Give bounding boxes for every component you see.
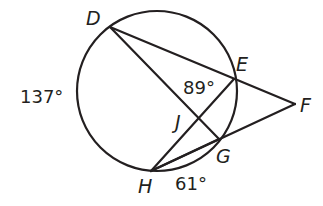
circle-secant-diagram: D E F G H J 137° 89° 61° xyxy=(0,0,323,206)
point-label-F: F xyxy=(300,94,312,116)
point-label-G: G xyxy=(216,145,231,167)
point-label-E: E xyxy=(236,53,248,75)
point-label-J: J xyxy=(171,111,181,133)
arc-measure-DH: 137° xyxy=(20,86,63,107)
arc-measure-HG: 61° xyxy=(175,173,207,194)
angle-measure-DJE: 89° xyxy=(183,77,215,98)
point-label-D: D xyxy=(86,7,101,29)
point-label-H: H xyxy=(138,175,152,197)
